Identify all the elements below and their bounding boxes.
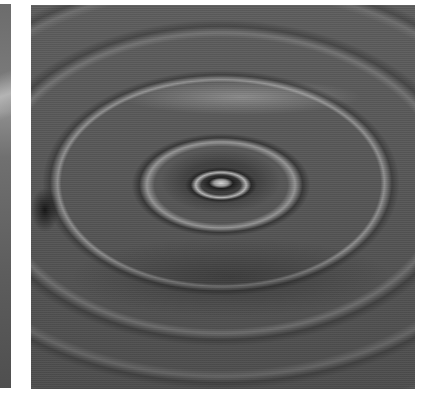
ripple-photo	[31, 5, 415, 389]
adjacent-image-strip	[0, 4, 11, 388]
photo-grain	[31, 5, 415, 389]
image-canvas	[0, 0, 424, 402]
